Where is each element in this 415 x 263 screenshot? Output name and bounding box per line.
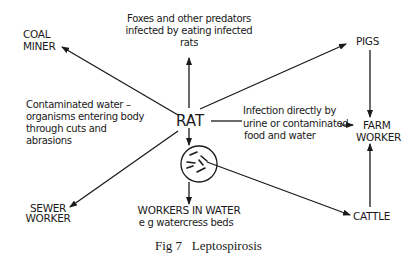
workers-in-water-label: WORKERS IN WATER — [138, 204, 241, 216]
pigs-label: PIGS — [356, 35, 380, 47]
predators-text-line2: infected by eating infected — [126, 25, 253, 36]
arrow-rat-to-pigs — [200, 44, 346, 109]
contaminated-water-line3: through cuts and — [26, 123, 107, 134]
workers-in-water-example: e g watercress beds — [139, 217, 234, 228]
figure-caption: Fig 7 Leptospirosis — [155, 238, 262, 253]
coal-miner-label-line1: COAL — [23, 28, 51, 40]
farm-worker-label-line1: FARM — [363, 119, 391, 131]
contaminated-water-line2: organisms entering body — [26, 111, 145, 122]
predators-text-line3: rats — [180, 37, 198, 48]
predators-text-line1: Foxes and other predators — [127, 13, 251, 24]
farm-worker-label-line2: WORKER — [356, 131, 401, 143]
coal-miner-label-line2: MINER — [23, 40, 55, 52]
sewer-worker-label-line2: WORKER — [26, 212, 71, 224]
contaminated-water-line4: abrasions — [26, 135, 72, 146]
contaminated-water-line1: Contaminated water – — [26, 99, 131, 110]
infection-direct-line1: Infection directly by — [243, 105, 337, 116]
infection-direct-line2: urine or contaminated — [243, 118, 348, 129]
leptospirosis-diagram: RAT COAL MINER Foxes and other predators… — [0, 0, 415, 263]
arrow-rat-to-sewer-worker — [70, 131, 178, 207]
infection-direct-line3: food and water — [244, 130, 317, 141]
rat-label: RAT — [176, 112, 205, 130]
cattle-label: CATTLE — [353, 210, 390, 222]
